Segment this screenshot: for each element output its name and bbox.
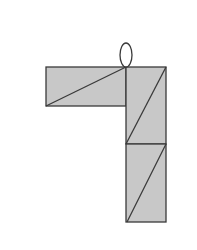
top-oval	[120, 43, 132, 67]
upper-square	[126, 67, 166, 144]
lower-square	[126, 144, 166, 222]
seven-shaped-tangram-diagram	[0, 0, 197, 250]
background	[0, 0, 197, 250]
horizontal-bar	[46, 67, 126, 106]
